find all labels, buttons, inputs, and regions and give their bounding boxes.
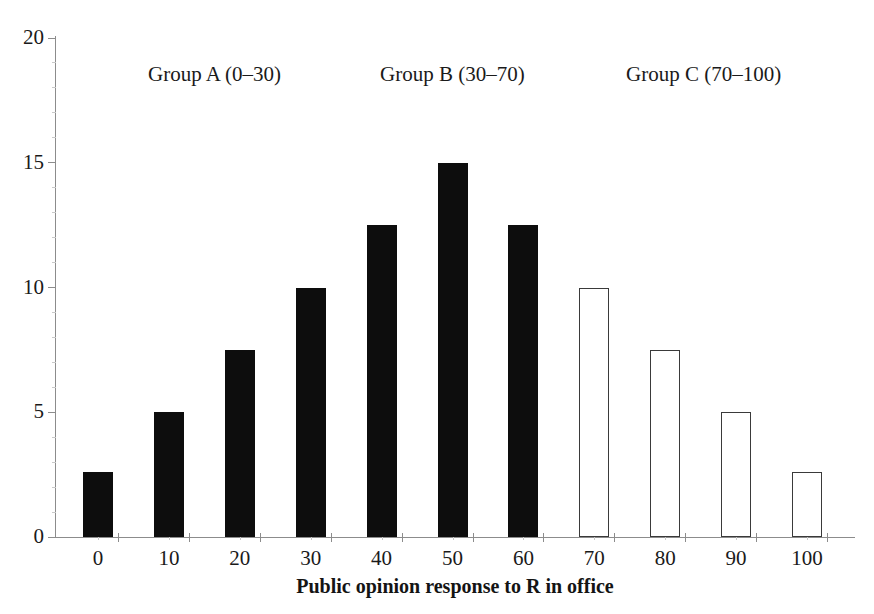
bar-60 <box>508 225 538 537</box>
x-tick-90 <box>756 533 757 542</box>
bar-20 <box>225 350 255 537</box>
x-tick-label-60: 60 <box>483 546 563 570</box>
y-tick-5 <box>48 412 56 413</box>
y-tick-20 <box>48 38 56 39</box>
y-tick-minor <box>52 237 56 238</box>
bar-40 <box>367 225 397 537</box>
group-label-3: Group C (70–100) <box>626 62 781 86</box>
y-tick-label-5: 5 <box>0 401 44 422</box>
x-tick-70 <box>614 533 615 542</box>
y-tick-0 <box>48 537 56 538</box>
y-tick-minor <box>52 337 56 338</box>
bar-chart-figure: 0102030405060708090100 05101520 Group A … <box>0 0 874 614</box>
y-tick-label-10: 10 <box>0 277 44 298</box>
x-tick-label-30: 30 <box>271 546 351 570</box>
y-tick-minor <box>52 62 56 63</box>
y-tick-label-20: 20 <box>0 27 44 48</box>
x-tick-label-70: 70 <box>554 546 634 570</box>
y-tick-minor <box>52 437 56 438</box>
y-tick-minor <box>52 87 56 88</box>
bar-100 <box>792 472 822 537</box>
bar-50 <box>438 163 468 537</box>
y-tick-minor <box>52 362 56 363</box>
x-tick-40 <box>402 533 403 542</box>
x-tick-100 <box>827 533 828 542</box>
y-tick-minor <box>52 312 56 313</box>
x-tick-label-90: 90 <box>696 546 776 570</box>
x-tick-label-100: 100 <box>767 546 847 570</box>
y-tick-minor <box>52 462 56 463</box>
bar-80 <box>650 350 680 537</box>
y-tick-label-text: 5 <box>0 401 44 422</box>
y-tick-minor <box>52 137 56 138</box>
x-tick-0 <box>118 533 119 542</box>
y-tick-minor <box>52 212 56 213</box>
x-tick-label-10: 10 <box>129 546 209 570</box>
bar-30 <box>296 288 326 538</box>
x-tick-label-40: 40 <box>342 546 422 570</box>
y-tick-minor <box>52 387 56 388</box>
y-tick-label-text: 0 <box>0 526 44 547</box>
bar-70 <box>579 288 609 538</box>
x-tick-label-50: 50 <box>413 546 493 570</box>
y-tick-minor <box>52 487 56 488</box>
y-tick-label-text: 10 <box>0 277 44 298</box>
x-tick-20 <box>260 533 261 542</box>
y-tick-label-text: 15 <box>0 152 44 173</box>
x-tick-label-20: 20 <box>200 546 280 570</box>
y-tick-15 <box>48 162 56 163</box>
x-axis-title: Public opinion response to R in office <box>55 575 855 598</box>
y-tick-label-text: 20 <box>0 27 44 48</box>
x-tick-10 <box>189 533 190 542</box>
x-axis-line <box>55 537 855 538</box>
x-tick-80 <box>685 533 686 542</box>
x-tick-label-0: 0 <box>58 546 138 570</box>
y-tick-minor <box>52 262 56 263</box>
y-tick-label-0: 0 <box>0 526 44 547</box>
x-tick-50 <box>473 533 474 542</box>
x-tick-label-80: 80 <box>625 546 705 570</box>
x-tick-30 <box>331 533 332 542</box>
y-tick-label-15: 15 <box>0 152 44 173</box>
y-tick-minor <box>52 512 56 513</box>
group-label-2: Group B (30–70) <box>380 62 525 86</box>
y-tick-minor <box>52 187 56 188</box>
x-tick-60 <box>543 533 544 542</box>
y-tick-minor <box>52 112 56 113</box>
group-label-1: Group A (0–30) <box>148 62 281 86</box>
bar-90 <box>721 412 751 537</box>
bar-10 <box>154 412 184 537</box>
y-tick-10 <box>48 287 56 288</box>
bar-0 <box>83 472 113 537</box>
